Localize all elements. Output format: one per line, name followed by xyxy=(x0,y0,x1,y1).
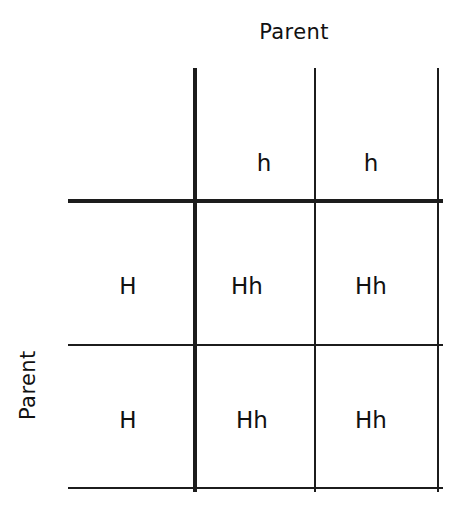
column-gamete-1: h xyxy=(257,150,272,176)
grid-vertical-line-2 xyxy=(314,68,316,492)
grid-horizontal-line-1 xyxy=(68,199,443,203)
left-axis-title: Parent xyxy=(16,350,40,420)
grid-horizontal-line-2 xyxy=(68,344,443,346)
grid-horizontal-line-3 xyxy=(68,487,443,489)
row-gamete-1: H xyxy=(119,273,136,299)
punnett-square-figure: Parent Parent hhHHHhHhHhHh xyxy=(0,0,453,510)
top-axis-title: Parent xyxy=(0,20,453,44)
grid-vertical-line-1 xyxy=(193,68,197,492)
row-gamete-2: H xyxy=(119,407,136,433)
genotype-cell-4: Hh xyxy=(355,407,387,433)
column-gamete-2: h xyxy=(364,150,379,176)
grid-vertical-line-3 xyxy=(437,68,439,492)
genotype-cell-3: Hh xyxy=(236,407,268,433)
genotype-cell-2: Hh xyxy=(355,273,387,299)
genotype-cell-1: Hh xyxy=(231,273,263,299)
